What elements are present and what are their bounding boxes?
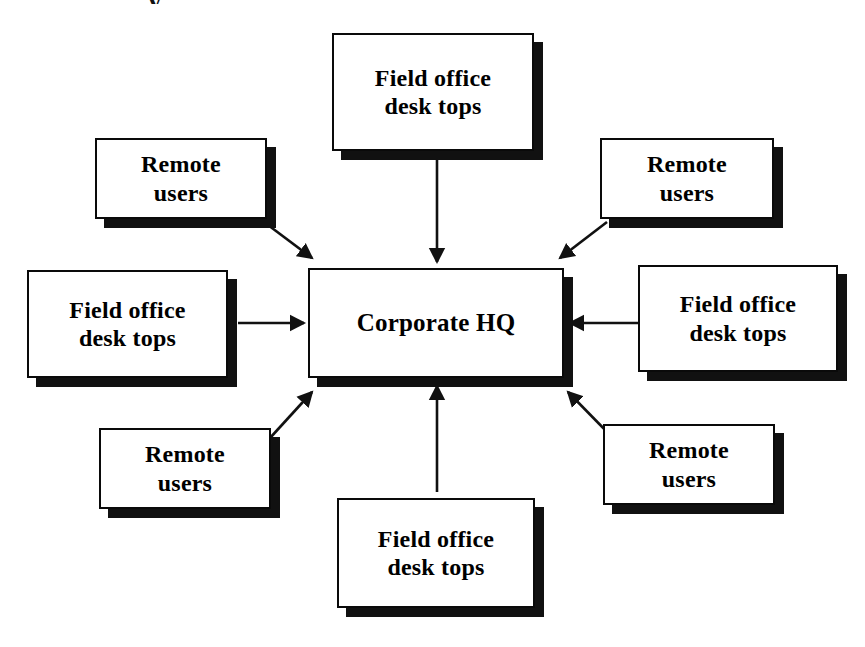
- arrow-top-left-to-hub: [264, 222, 312, 258]
- node-label-remote-users-top-left: Remote users: [141, 150, 221, 207]
- node-remote-users-top-right[interactable]: Remote users: [600, 138, 774, 219]
- node-label-remote-users-bottom-left: Remote users: [145, 440, 225, 497]
- node-field-office-desk-tops-left[interactable]: Field office desk tops: [27, 270, 228, 378]
- node-remote-users-top-left[interactable]: Remote users: [95, 138, 267, 219]
- node-label-field-office-desk-tops-right: Field office desk tops: [680, 290, 796, 347]
- node-field-office-desk-tops-top[interactable]: Field office desk tops: [332, 33, 534, 151]
- node-field-office-desk-tops-bottom[interactable]: Field office desk tops: [337, 498, 535, 608]
- node-label-field-office-desk-tops-bottom: Field office desk tops: [378, 525, 494, 582]
- node-remote-users-bottom-right[interactable]: Remote users: [603, 424, 775, 505]
- node-label-field-office-desk-tops-left: Field office desk tops: [69, 296, 185, 353]
- cropped-text-fragment: y: [148, 0, 174, 4]
- node-label-remote-users-bottom-right: Remote users: [649, 436, 729, 493]
- node-field-office-desk-tops-right[interactable]: Field office desk tops: [638, 265, 838, 372]
- cropped-text-fragment-glyph: y: [148, 0, 162, 4]
- arrow-top-right-to-hub: [560, 222, 607, 258]
- node-label-field-office-desk-tops-top: Field office desk tops: [375, 64, 491, 121]
- node-remote-users-bottom-left[interactable]: Remote users: [99, 428, 271, 509]
- diagram-canvas: y Corporate HQField office desk topsRemo…: [0, 0, 865, 647]
- node-corporate-hq[interactable]: Corporate HQ: [308, 268, 564, 378]
- arrow-bottom-left-to-hub: [270, 392, 312, 438]
- node-label-corporate-hq: Corporate HQ: [357, 308, 516, 338]
- node-label-remote-users-top-right: Remote users: [647, 150, 727, 207]
